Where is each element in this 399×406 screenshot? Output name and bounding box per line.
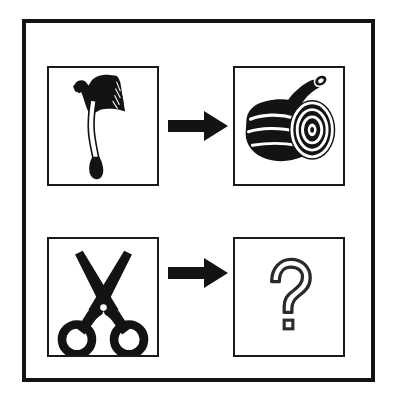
log-icon xyxy=(235,68,343,184)
scissors-icon xyxy=(49,239,157,355)
panel-scissors: Scissors xyxy=(47,237,159,357)
panel-log: Log xyxy=(233,66,345,186)
arrow-right-icon-top: leads to xyxy=(166,106,232,146)
arrow-right-icon-bottom: leads to xyxy=(166,253,232,293)
axe-icon xyxy=(49,68,157,184)
panel-axe: Axe xyxy=(47,66,159,186)
panel-question: ? xyxy=(233,237,345,357)
question-mark-icon xyxy=(235,239,343,355)
analogy-puzzle-figure: Axe leads to Log xyxy=(0,0,399,406)
